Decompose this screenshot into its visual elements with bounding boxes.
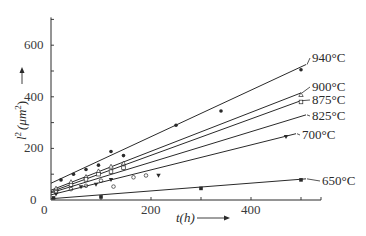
open-circle-marker-icon xyxy=(144,174,148,178)
filled-circle-marker-icon xyxy=(299,68,303,72)
y-axis-arrow-icon xyxy=(20,67,25,73)
y-tick-label-0: 0 xyxy=(30,192,37,207)
label-leader-line xyxy=(307,115,310,116)
fit-line xyxy=(51,179,306,199)
filled-circle-marker-icon xyxy=(122,154,126,158)
label-leader-line xyxy=(307,58,310,65)
open-square-marker-icon xyxy=(109,170,113,174)
y-axis-title: l2(μm2) xyxy=(13,67,29,140)
filled-circle-marker-icon xyxy=(174,123,178,127)
open-square-marker-icon xyxy=(97,172,101,176)
filled-circle-marker-icon xyxy=(109,150,113,154)
series-label: 940°C xyxy=(312,50,345,65)
filled-square-marker-icon xyxy=(299,178,303,182)
inverted-triangle-marker-icon xyxy=(94,183,98,187)
series-label: 825°C xyxy=(312,108,345,123)
series-940c xyxy=(51,65,306,184)
x-axis-arrow-icon xyxy=(224,216,230,221)
filled-square-marker-icon xyxy=(199,187,203,191)
filled-circle-marker-icon xyxy=(219,109,223,113)
filled-circle-marker-icon xyxy=(72,172,76,176)
inverted-triangle-marker-icon xyxy=(54,193,58,197)
inverted-triangle-marker-icon xyxy=(156,174,160,178)
open-circle-marker-icon xyxy=(112,185,116,189)
label-leader-line xyxy=(302,100,310,101)
x-axis-title: t(h) xyxy=(176,210,230,225)
open-square-marker-icon xyxy=(122,166,126,170)
fit-line xyxy=(51,115,306,193)
y-tick-label-600: 600 xyxy=(24,37,44,52)
x-tick-label-200: 200 xyxy=(141,202,161,217)
x-axis-title-text: t(h) xyxy=(176,210,195,225)
y-axis-title-text: l2(μm2) xyxy=(13,101,29,140)
x-tick-label-0: 0 xyxy=(41,202,48,217)
fit-line xyxy=(51,65,306,184)
series-label: 700°C xyxy=(302,127,335,142)
open-circle-marker-icon xyxy=(132,175,136,179)
axes xyxy=(51,17,321,200)
open-square-marker-icon xyxy=(84,178,88,182)
y-tick-label-200: 200 xyxy=(24,140,44,155)
series-700c xyxy=(51,134,296,197)
series-group xyxy=(51,65,306,200)
x-tick-label-400: 400 xyxy=(241,202,261,217)
label-leader-line xyxy=(302,87,310,93)
filled-square-marker-icon xyxy=(52,196,56,200)
series-label: 875°C xyxy=(312,92,345,107)
label-leader-line xyxy=(297,134,300,135)
fit-line xyxy=(51,101,301,192)
filled-circle-marker-icon xyxy=(84,168,88,172)
series-label: 650°C xyxy=(322,173,355,188)
filled-circle-marker-icon xyxy=(97,163,101,167)
diffusion-chart: 940°C900°C875°C825°C700°C650°C 0 200 400… xyxy=(0,0,366,236)
label-leader-line xyxy=(307,179,320,181)
series-labels: 940°C900°C875°C825°C700°C650°C xyxy=(297,50,355,188)
filled-square-marker-icon xyxy=(99,195,103,199)
filled-circle-marker-icon xyxy=(59,178,63,182)
plot-area: 940°C900°C875°C825°C700°C650°C 0 200 400… xyxy=(0,0,366,236)
